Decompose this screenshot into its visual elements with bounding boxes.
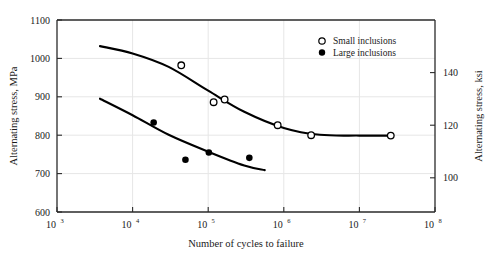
x-tick-label: 10	[197, 219, 207, 230]
y-tick-right-label: 100	[443, 172, 458, 183]
x-tick-label: 10	[273, 219, 283, 230]
data-point-small-inclusion	[221, 96, 228, 103]
x-tick-label: 10	[348, 219, 358, 230]
legend-label: Small inclusions	[333, 36, 396, 46]
y-tick-left-label: 600	[35, 207, 50, 218]
x-axis-title: Number of cycles to failure	[188, 238, 304, 249]
y-tick-right-label: 140	[443, 67, 458, 78]
chart-background	[0, 0, 494, 258]
data-point-small-inclusion	[387, 132, 394, 139]
y-tick-right-label: 120	[443, 120, 458, 131]
y-axis-left-title: Alternating stress, MPa	[8, 66, 19, 165]
x-tick-label: 10	[46, 219, 56, 230]
y-tick-left-label: 800	[35, 130, 50, 141]
y-tick-left-label: 1000	[30, 53, 50, 64]
legend-marker-open-circle	[319, 38, 325, 44]
data-point-large-inclusion	[206, 149, 213, 156]
data-point-large-inclusion	[150, 119, 157, 126]
data-point-small-inclusion	[308, 132, 315, 139]
data-point-small-inclusion	[210, 99, 217, 106]
data-point-small-inclusion	[274, 122, 281, 129]
x-tick-label: 10	[122, 219, 132, 230]
x-tick-exponent: 8	[438, 217, 441, 224]
chart-root: 103104105106107108 60070080090010001100 …	[0, 0, 494, 258]
sn-curve-chart: 103104105106107108 60070080090010001100 …	[0, 0, 494, 258]
y-tick-left-label: 900	[35, 91, 50, 102]
y-tick-left-label: 700	[35, 168, 50, 179]
y-axis-right-title: Alternating stress, ksi	[473, 70, 484, 161]
legend-label: Large inclusions	[333, 48, 396, 58]
x-tick-exponent: 5	[212, 217, 215, 224]
data-point-large-inclusion	[182, 156, 189, 163]
x-tick-exponent: 3	[60, 217, 63, 224]
y-tick-left-label: 1100	[30, 15, 50, 26]
data-point-small-inclusion	[178, 62, 185, 69]
data-point-large-inclusion	[246, 155, 253, 162]
legend-marker-filled-circle	[319, 49, 325, 55]
x-tick-label: 10	[424, 219, 434, 230]
